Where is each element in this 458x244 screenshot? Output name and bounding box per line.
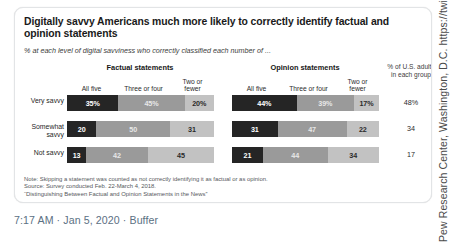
- bar-track-factual-somewhat-savvy: 20 50 31: [67, 121, 214, 138]
- bar-segment-opinion-three-or-four: 44: [263, 147, 328, 164]
- report-title-line: “Distinguishing Between Factual and Opin…: [24, 191, 425, 198]
- bar-value: 20%: [192, 99, 206, 108]
- bar-segment-opinion-all-five: 31: [232, 121, 278, 138]
- sub-header-row: All five Three or four Two or fewer All …: [24, 76, 425, 93]
- source-line: Source: Survey conducted Feb. 22-March 4…: [24, 183, 425, 190]
- bar-value: 22: [359, 125, 367, 134]
- bar-value: 44%: [257, 99, 271, 108]
- table-row: Not savvy 13 42 45 21 44 34 17: [24, 146, 425, 172]
- bar-track-opinion-somewhat-savvy: 31 47 22: [232, 121, 379, 138]
- group-header-opinion: Opinion statements: [231, 63, 379, 72]
- bar-segment-factual-three-or-four: 42: [86, 147, 148, 164]
- bar-segment-opinion-two-or-fewer: 22: [347, 121, 379, 138]
- bar-value: 35%: [86, 99, 100, 108]
- chart-rows: Very savvy 35% 45% 20% 44% 39% 17% 48% S…: [24, 94, 425, 172]
- tweet-media-card[interactable]: Digitally savvy Americans much more like…: [14, 7, 432, 203]
- sub-header-opinion-two-or-fewer: Two or fewer: [336, 78, 379, 93]
- sub-header-factual-all-five: All five: [67, 85, 116, 93]
- bar-segment-opinion-all-five: 21: [232, 147, 263, 164]
- bar-value: 34: [349, 151, 357, 160]
- bar-value: 45%: [144, 99, 158, 108]
- right-value-not-savvy: 17: [382, 150, 432, 159]
- right-value-very-savvy: 48%: [382, 98, 432, 107]
- bar-value: 42: [113, 151, 121, 160]
- row-label-very-savvy: Very savvy: [24, 97, 64, 105]
- pew-chart: Digitally savvy Americans much more like…: [24, 16, 425, 198]
- watermark: Pew Research Center, Washington, D.C. ht…: [437, 0, 458, 244]
- watermark-text: Pew Research Center, Washington, D.C. ht…: [437, 0, 449, 242]
- bar-segment-factual-all-five: 20: [67, 121, 96, 138]
- bar-track-opinion-not-savvy: 21 44 34: [232, 147, 379, 164]
- bar-value: 21: [244, 151, 252, 160]
- bar-segment-opinion-three-or-four: 39%: [297, 95, 354, 112]
- bar-segment-factual-all-five: 35%: [67, 95, 118, 112]
- chart-subtitle: % at each level of digital savviness who…: [24, 46, 425, 55]
- bar-value: 50: [129, 125, 137, 134]
- group-header-row: Factual statements Opinion statements % …: [24, 63, 425, 74]
- sub-header-opinion-three-or-four: Three or four: [281, 85, 336, 93]
- bar-track-factual-very-savvy: 35% 45% 20%: [67, 95, 214, 112]
- bar-track-opinion-very-savvy: 44% 39% 17%: [232, 95, 379, 112]
- sub-header-factual-two-or-fewer: Two or fewer: [171, 78, 214, 93]
- bar-value: 47: [308, 125, 316, 134]
- tweet-timestamp[interactable]: 7:17 AM · Jan 5, 2020 · Buffer: [14, 214, 158, 226]
- bar-segment-factual-all-five: 13: [67, 147, 86, 164]
- bar-segment-opinion-two-or-fewer: 34: [328, 147, 379, 164]
- bar-segment-factual-two-or-fewer: 45: [148, 147, 214, 164]
- bar-value: 17%: [359, 99, 373, 108]
- bar-value: 44: [291, 151, 299, 160]
- chart-title: Digitally savvy Americans much more like…: [24, 16, 422, 41]
- note-line: Note: Skipping a statement was counted a…: [24, 176, 425, 183]
- table-row: Somewhat savvy 20 50 31 31 47 22 34: [24, 120, 425, 146]
- bar-segment-opinion-three-or-four: 47: [278, 121, 347, 138]
- bar-value: 31: [188, 125, 196, 134]
- row-label-somewhat-savvy: Somewhat savvy: [24, 123, 64, 139]
- table-row: Very savvy 35% 45% 20% 44% 39% 17% 48%: [24, 94, 425, 120]
- bar-value: 31: [251, 125, 259, 134]
- bar-value: 45: [177, 151, 185, 160]
- chart-notes: Note: Skipping a statement was counted a…: [24, 176, 425, 198]
- bar-segment-factual-two-or-fewer: 31: [170, 121, 214, 138]
- sub-header-factual-three-or-four: Three or four: [116, 85, 171, 93]
- bar-segment-factual-three-or-four: 45%: [118, 95, 184, 112]
- bar-value: 39%: [318, 99, 332, 108]
- bar-value: 13: [73, 151, 81, 160]
- bar-segment-opinion-all-five: 44%: [232, 95, 297, 112]
- right-value-somewhat-savvy: 34: [382, 124, 432, 133]
- bar-segment-factual-two-or-fewer: 20%: [185, 95, 214, 112]
- row-label-not-savvy: Not savvy: [24, 149, 64, 157]
- bar-segment-factual-three-or-four: 50: [96, 121, 170, 138]
- bar-track-factual-not-savvy: 13 42 45: [67, 147, 214, 164]
- bar-segment-opinion-two-or-fewer: 17%: [354, 95, 379, 112]
- bar-value: 20: [78, 125, 86, 134]
- sub-header-opinion-all-five: All five: [232, 85, 281, 93]
- group-header-factual: Factual statements: [66, 63, 214, 72]
